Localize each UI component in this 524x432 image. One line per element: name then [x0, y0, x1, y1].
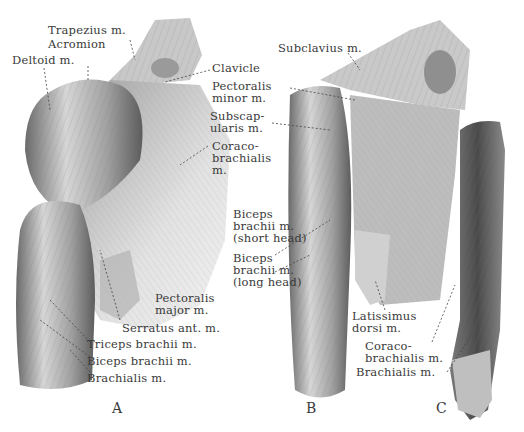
panel-label-b: B [306, 400, 316, 416]
panel-label-c: C [436, 400, 447, 416]
label-biceps-short-line3: (short head) [233, 232, 307, 244]
label-coracobrachialis-line3: m. [212, 164, 227, 176]
label-pectoralis-minor-line2: minor m. [212, 92, 266, 104]
label-subclavius: Subclavius m. [278, 42, 362, 54]
label-c-brachialis: Brachialis m. [356, 366, 435, 378]
label-triceps: Triceps brachii m. [87, 338, 197, 350]
panel-label-a: A [112, 400, 122, 416]
label-serratus: Serratus ant. m. [122, 322, 220, 334]
label-clavicle: Clavicle [212, 62, 260, 74]
label-brachialis: Brachialis m. [87, 372, 166, 384]
label-c-coracobrachialis-line2: brachialis m. [365, 352, 443, 364]
label-pectoralis-major-line2: major m. [155, 304, 209, 316]
label-latissimus-line2: dorsi m. [352, 322, 401, 334]
label-biceps: Biceps brachii m. [87, 355, 192, 367]
label-biceps-long-line3: (long head) [233, 276, 302, 288]
figure-c-drawing [450, 121, 505, 420]
label-trapezius: Trapezius m. [48, 24, 126, 36]
label-deltoid: Deltoid m. [12, 54, 75, 66]
label-acromion: Acromion [48, 38, 106, 50]
label-subscapularis-line2: ularis m. [210, 122, 263, 134]
